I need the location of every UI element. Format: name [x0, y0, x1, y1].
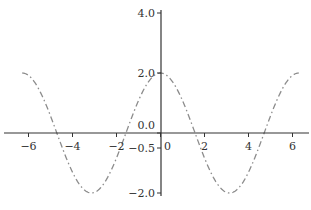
y-tick-label: −2.0: [128, 187, 155, 200]
x-tick-label: −4: [64, 140, 80, 153]
y-axis-ticks: 4.02.00.0−0.5−2.0: [128, 7, 161, 200]
y-tick-label: 2.0: [138, 67, 156, 80]
x-axis-ticks: −6−4−20246: [20, 133, 296, 153]
x-tick-label: 6: [289, 140, 296, 153]
x-tick-label: 4: [245, 140, 252, 153]
x-tick-label: −6: [20, 140, 36, 153]
chart: −6−4−20246 4.02.00.0−0.5−2.0: [0, 0, 311, 210]
x-tick-label: 0: [164, 140, 171, 153]
y-tick-label: 0.0: [138, 119, 156, 132]
y-tick-label: −0.5: [128, 142, 155, 155]
y-tick-label: 4.0: [138, 7, 156, 20]
x-tick-label: −2: [108, 140, 124, 153]
x-tick-label: 2: [201, 140, 208, 153]
